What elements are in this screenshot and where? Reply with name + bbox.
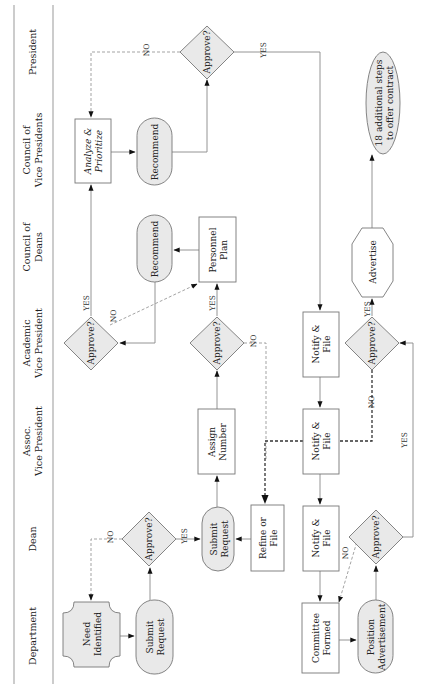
node-president-approve[interactable]: Approve?: [180, 26, 234, 79]
node-assoc-notify-file[interactable]: Notify &File: [303, 409, 339, 474]
node-dean-approve-1[interactable]: Approve?: [122, 512, 176, 566]
node-cod-recommend[interactable]: Recommend: [137, 215, 172, 282]
svg-text:YES: YES: [82, 295, 91, 312]
svg-text:YES: YES: [363, 301, 372, 318]
hiring-process-swimlane-diagram: President Council ofVice Presidents Coun…: [0, 0, 421, 688]
svg-text:NO: NO: [109, 310, 118, 323]
svg-text:18 additional stepsto offer co: 18 additional stepsto offer contract: [374, 59, 395, 146]
node-cvp-recommend[interactable]: Recommend: [137, 118, 172, 185]
node-need-identified[interactable]: NeedIdentified: [63, 602, 120, 667]
svg-text:Approve?: Approve?: [202, 30, 212, 74]
node-advertise[interactable]: Advertise: [352, 228, 393, 297]
svg-text:YES: YES: [259, 42, 268, 59]
node-dean-submit-request[interactable]: SubmitRequest: [202, 507, 234, 571]
svg-text:NO: NO: [106, 531, 115, 544]
svg-text:Recommend: Recommend: [150, 124, 160, 181]
svg-text:YES: YES: [180, 528, 189, 545]
node-dean-approve-2[interactable]: Approve?: [349, 510, 403, 564]
node-refine-or-file[interactable]: Refine orFile: [251, 505, 284, 571]
svg-text:NO: NO: [341, 547, 350, 560]
svg-text:SubmitRequest: SubmitRequest: [145, 618, 166, 656]
svg-text:Approve?: Approve?: [371, 515, 381, 559]
node-avp-approve-3[interactable]: Approve?: [345, 317, 399, 370]
lane-label-council-vp: Council ofVice Presidents: [21, 113, 44, 189]
lane-labels: President Council ofVice Presidents Coun…: [21, 29, 44, 665]
svg-text:NO: NO: [249, 335, 258, 348]
node-personnel-plan[interactable]: PersonnelPlan: [199, 217, 236, 282]
svg-text:Approve?: Approve?: [212, 321, 222, 365]
svg-text:CommitteeFormed: CommitteeFormed: [311, 613, 332, 663]
node-assign-number[interactable]: AssignNumber: [198, 409, 235, 474]
svg-text:Advertise: Advertise: [368, 240, 378, 284]
lane-label-president: President: [27, 29, 38, 75]
svg-text:YES: YES: [208, 295, 217, 312]
lane-label-academic-vp: AcademicVice President: [21, 308, 44, 379]
node-committee-formed[interactable]: CommitteeFormed: [302, 603, 339, 673]
node-additional-steps[interactable]: 18 additional stepsto offer contract: [366, 52, 400, 154]
svg-text:Approve?: Approve?: [144, 517, 154, 561]
lane-label-assoc-vp: Assoc.Vice President: [21, 406, 44, 477]
node-position-advertisement[interactable]: PositionAdvertisement: [358, 600, 393, 673]
lane-label-department: Department: [27, 607, 38, 665]
svg-text:SubmitRequest: SubmitRequest: [209, 520, 230, 558]
svg-text:AssignNumber: AssignNumber: [207, 423, 228, 461]
svg-text:Approve?: Approve?: [86, 321, 96, 365]
svg-text:NO: NO: [142, 44, 151, 57]
svg-text:NO: NO: [367, 396, 376, 409]
lane-label-dean: Dean: [27, 526, 38, 551]
node-dept-submit-request[interactable]: SubmitRequest: [136, 600, 173, 674]
svg-text:Approve?: Approve?: [367, 321, 377, 365]
node-avp-approve-2[interactable]: Approve?: [190, 317, 244, 370]
node-dean-notify-file[interactable]: Notify &File: [303, 506, 339, 571]
svg-text:Recommend: Recommend: [150, 221, 160, 278]
node-analyze-prioritize[interactable]: Analyze &Prioritize: [75, 119, 111, 183]
node-avp-approve-1[interactable]: Approve?: [64, 317, 118, 370]
node-avp-notify-file[interactable]: Notify &File: [303, 312, 339, 377]
lane-label-council-deans: Council ofDeans: [21, 221, 44, 271]
svg-text:Analyze &Prioritize: Analyze &Prioritize: [83, 128, 104, 176]
svg-text:YES: YES: [400, 432, 409, 449]
